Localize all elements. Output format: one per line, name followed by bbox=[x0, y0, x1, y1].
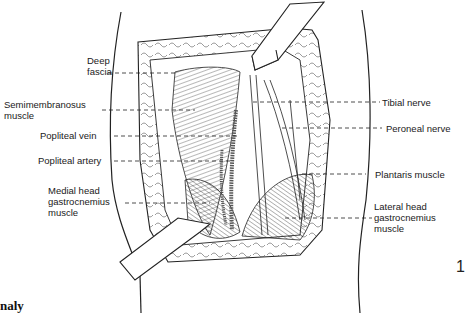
label-deep-fascia: Deep fascia bbox=[87, 55, 112, 77]
label-peroneal-nerve: Peroneal nerve bbox=[386, 123, 450, 134]
label-semimembranosus: Semimembranosus muscle bbox=[4, 99, 86, 121]
label-plantaris-muscle: Plantaris muscle bbox=[375, 169, 445, 180]
label-popliteal-artery: Popliteal artery bbox=[38, 155, 101, 166]
label-medial-head-gastrocnemius: Medial head gastrocnemius muscle bbox=[48, 185, 110, 218]
label-tibial-nerve: Tibial nerve bbox=[382, 97, 431, 108]
label-lateral-head-gastrocnemius: Lateral head gastrocnemius muscle bbox=[374, 201, 436, 234]
label-popliteal-vein: Popliteal vein bbox=[40, 130, 97, 141]
caption-fragment: naly bbox=[0, 298, 24, 313]
figure-number: 1 bbox=[456, 258, 465, 276]
